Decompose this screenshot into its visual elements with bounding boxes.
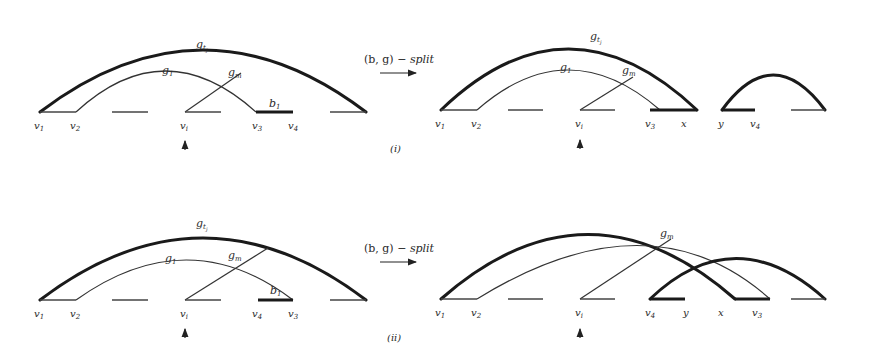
operation-label: (b, g) − split <box>364 53 435 66</box>
label-g1: g1 <box>560 61 572 75</box>
panel-i-after: gtj g1 gm v1 v2 vi v3 x y v4 <box>435 30 825 149</box>
vertex-y: y <box>717 118 724 129</box>
label-g-tj: gtj <box>590 30 602 46</box>
vertex-x: x <box>681 118 687 129</box>
vertex-v3: v3 <box>288 308 299 321</box>
caption-i: (i) <box>390 143 401 154</box>
vertex-vi: vi <box>575 307 583 320</box>
caption-ii: (ii) <box>387 332 401 343</box>
panel-ii-after: gm v1 v2 vi v4 y x v3 <box>435 227 825 338</box>
vertex-vi: vi <box>180 308 188 321</box>
vertex-x: x <box>718 307 724 318</box>
arc-g-tj <box>40 50 366 112</box>
vertex-v2: v2 <box>70 120 81 133</box>
split-operation-diagram: gtj g1 gm b1 v1 v2 vi v3 v4 (b, g) − spl… <box>0 0 882 357</box>
label-gm: gm <box>660 227 674 241</box>
vertex-v2: v2 <box>70 308 81 321</box>
label-b1: b1 <box>270 284 282 298</box>
vertex-v1: v1 <box>435 307 445 320</box>
arc-g1 <box>76 260 293 300</box>
arc-g-tj-split <box>441 235 735 300</box>
vertex-v2: v2 <box>471 118 482 131</box>
panel-ii-before: gtj g1 gm b1 v1 v2 vi v4 v3 <box>34 217 366 338</box>
arc-v4-end <box>650 259 825 300</box>
vertex-v4: v4 <box>288 120 298 133</box>
label-b1: b1 <box>269 97 281 111</box>
vertex-vi: vi <box>575 118 583 131</box>
arc-g-tj <box>441 49 697 110</box>
vertex-y: y <box>682 307 689 318</box>
arc-gm <box>580 77 633 110</box>
vertex-v3: v3 <box>645 118 656 131</box>
vertex-v4: v4 <box>750 118 760 131</box>
vertex-v3: v3 <box>252 120 263 133</box>
vertex-v1: v1 <box>435 118 445 131</box>
operation-arrow-i: (b, g) − split <box>364 53 435 73</box>
vertex-v3: v3 <box>752 307 763 320</box>
arc-gm <box>580 239 671 299</box>
arc-gm <box>185 248 268 300</box>
vertex-v2: v2 <box>471 307 482 320</box>
label-gm: gm <box>228 66 242 80</box>
operation-arrow-ii: (b, g) − split <box>364 242 435 262</box>
label-g-tj: gtj <box>196 217 208 233</box>
vertex-v4: v4 <box>645 307 655 320</box>
label-g1: g1 <box>165 252 177 266</box>
operation-label: (b, g) − split <box>364 242 435 255</box>
panel-i-before: gtj g1 gm b1 v1 v2 vi v3 v4 <box>34 38 366 150</box>
arc-y-end <box>722 75 825 110</box>
vertex-vi: vi <box>180 120 188 133</box>
vertex-v1: v1 <box>34 308 44 321</box>
label-g1: g1 <box>162 64 174 78</box>
vertex-v4: v4 <box>252 308 262 321</box>
label-gm: gm <box>228 249 242 263</box>
vertex-v1: v1 <box>34 120 44 133</box>
